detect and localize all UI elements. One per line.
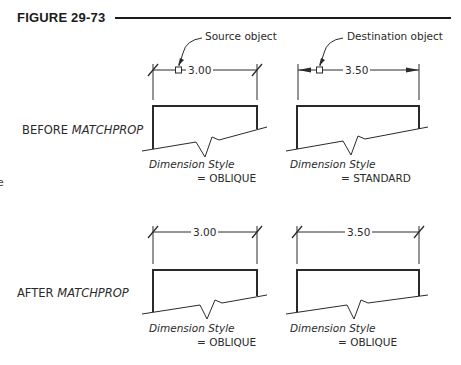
dimension-style-value: = STANDARD xyxy=(341,172,411,184)
stage-command: MATCHPROP xyxy=(57,286,129,300)
dimension-value: 3.00 xyxy=(191,226,218,238)
dimension-style-label: Dimension Style xyxy=(149,322,235,334)
arrowhead-left xyxy=(298,68,311,73)
dimension-style-value: = OBLIQUE xyxy=(338,336,397,348)
stage-label-after: AFTER MATCHPROP xyxy=(17,286,129,300)
panel-after-source-geometry xyxy=(142,226,267,319)
leader-source xyxy=(179,38,202,66)
stage-prefix: AFTER xyxy=(17,286,57,300)
leader-destination xyxy=(320,38,343,66)
break-line xyxy=(142,127,267,157)
dimension-value: 3.50 xyxy=(345,226,372,238)
arrowhead-right xyxy=(406,68,419,73)
stage-command: MATCHPROP xyxy=(72,123,144,137)
callout-destination-object: Destination object xyxy=(347,30,443,42)
dimension-value: 3.50 xyxy=(343,64,370,76)
panel-after-destination-geometry xyxy=(286,226,428,319)
dimension-style-value: = OBLIQUE xyxy=(197,336,256,348)
stage-label-before: BEFORE MATCHPROP xyxy=(22,123,143,137)
dimension-style-label: Dimension Style xyxy=(290,322,376,334)
part-outline xyxy=(153,106,257,149)
dimension-value: 3.00 xyxy=(186,64,213,76)
panel-before-destination-geometry xyxy=(286,38,428,155)
cropped-text-fragment: e xyxy=(0,176,4,189)
callout-source-object: Source object xyxy=(205,30,277,42)
dimension-style-label: Dimension Style xyxy=(149,158,235,170)
pick-box-destination xyxy=(317,67,323,73)
pick-box-source xyxy=(176,67,182,73)
dimension-style-value: = OBLIQUE xyxy=(197,172,256,184)
stage-prefix: BEFORE xyxy=(22,123,72,137)
panel-before-source-geometry xyxy=(142,38,267,157)
dimension-style-label: Dimension Style xyxy=(290,158,376,170)
